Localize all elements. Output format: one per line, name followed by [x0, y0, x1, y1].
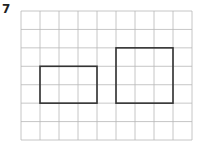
- grid-diagram: [0, 0, 203, 152]
- right-rectangle: [116, 48, 173, 103]
